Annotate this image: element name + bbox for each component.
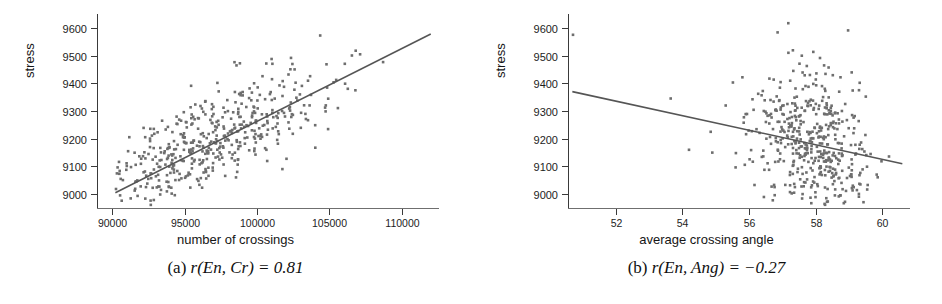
panel-a-y-axis-spine bbox=[97, 14, 98, 209]
panel-a-x-axis-title: number of crossings bbox=[0, 232, 471, 247]
panel-a: stress number of crossings (a) r(En, Cr)… bbox=[0, 0, 471, 304]
panel-b-x-axis-title: average crossing angle bbox=[471, 232, 942, 247]
panel-b-x-axis-spine bbox=[568, 208, 910, 209]
figure-correlation-scatterplots: stress number of crossings (a) r(En, Cr)… bbox=[0, 0, 942, 304]
panel-a-x-axis-spine bbox=[97, 208, 439, 209]
panel-b-y-axis-title: stress bbox=[493, 43, 508, 78]
panel-a-caption-math: r(En, Cr) = 0.81 bbox=[191, 258, 304, 277]
panel-a-caption-prefix: (a) bbox=[167, 258, 186, 277]
panel-b-caption: (b) r(En, Ang) = −0.27 bbox=[471, 258, 942, 278]
panel-a-y-axis-title: stress bbox=[22, 43, 37, 78]
panel-b: stress average crossing angle (b) r(En, … bbox=[471, 0, 942, 304]
panel-b-caption-math: r(En, Ang) = −0.27 bbox=[652, 258, 786, 277]
panel-b-caption-prefix: (b) bbox=[628, 258, 648, 277]
panel-a-caption: (a) r(En, Cr) = 0.81 bbox=[0, 258, 471, 278]
panel-b-y-axis-spine bbox=[568, 14, 569, 209]
